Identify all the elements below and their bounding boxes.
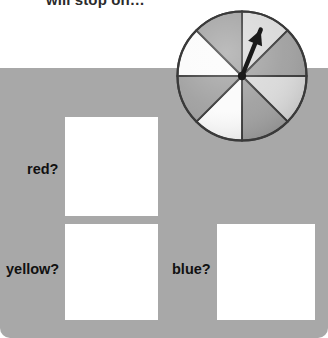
answer-box-red[interactable] <box>65 117 158 216</box>
answer-box-yellow[interactable] <box>65 224 158 320</box>
question-label-blue: blue? <box>172 261 211 277</box>
spinner-hub <box>238 72 246 80</box>
page-title: will stop on… <box>46 0 145 8</box>
answer-box-blue[interactable] <box>217 224 315 320</box>
spinner-wheel-graphic <box>172 6 312 146</box>
question-label-yellow: yellow? <box>6 261 59 277</box>
worksheet-page: will stop on… red? yellow? blue? <box>0 0 328 338</box>
question-label-red: red? <box>27 161 58 177</box>
spinner-wheel[interactable] <box>172 6 312 146</box>
